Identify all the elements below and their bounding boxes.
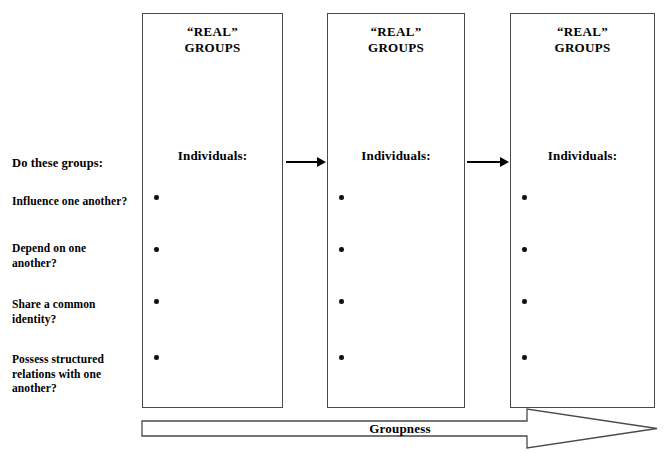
question-column: Do these groups: Influence one another? … xyxy=(0,0,142,454)
groupness-arrow-wrapper: Groupness xyxy=(140,0,660,454)
groupness-arrow-shape xyxy=(140,407,660,451)
groupness-diagram: Do these groups: Influence one another? … xyxy=(0,0,664,454)
groupness-arrow-outline xyxy=(142,409,657,448)
groupness-arrow-icon xyxy=(140,407,660,451)
question-item-structured-relations: Possess structured relations with one an… xyxy=(12,352,104,396)
question-lead: Do these groups: xyxy=(12,156,103,171)
question-item-identity: Share a common identity? xyxy=(12,297,96,326)
question-item-influence: Influence one another? xyxy=(12,194,127,209)
question-item-depend: Depend on one another? xyxy=(12,241,86,270)
